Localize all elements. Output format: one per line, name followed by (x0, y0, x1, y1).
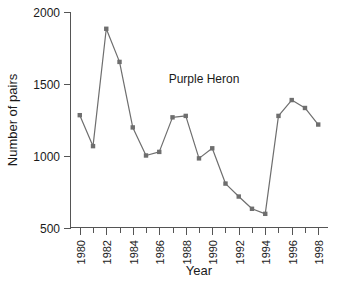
data-point-marker (170, 115, 174, 119)
x-axis-group: 1980198219841986198819901992199419961998… (71, 228, 328, 279)
x-tick-label: 1986 (154, 240, 166, 264)
data-point-marker (78, 113, 82, 117)
data-point-marker (91, 144, 95, 148)
data-point-marker (104, 27, 108, 31)
data-point-marker (290, 98, 294, 102)
y-tick-label: 2000 (33, 6, 60, 20)
y-tick-label: 1500 (33, 78, 60, 92)
series-annotation-label: Purple Heron (169, 72, 240, 86)
x-tick-label: 1996 (287, 240, 299, 264)
data-point-marker (184, 114, 188, 118)
data-point-marker (144, 153, 148, 157)
chart-figure: 200015001000500 Number of pairs 19801982… (0, 0, 339, 284)
y-axis-group: 200015001000500 Number of pairs (5, 6, 71, 236)
data-point-marker (197, 156, 201, 160)
x-axis-title: Year (186, 263, 213, 278)
data-point-marker (237, 194, 241, 198)
data-point-marker (250, 207, 254, 211)
x-tick-labels: 1980198219841986198819901992199419961998 (75, 240, 325, 264)
y-tick-labels: 200015001000500 (33, 6, 60, 236)
data-point-marker (131, 125, 135, 129)
y-axis-title: Number of pairs (5, 73, 20, 166)
x-tick-label: 1992 (234, 240, 246, 264)
y-tick-marks (64, 13, 71, 229)
data-point-marker (223, 181, 227, 185)
line-chart: 200015001000500 Number of pairs 19801982… (0, 0, 339, 284)
series-purple-heron (78, 27, 321, 216)
series-line (80, 29, 318, 214)
data-point-marker (316, 122, 320, 126)
y-tick-label: 500 (40, 222, 60, 236)
x-tick-label: 1982 (101, 240, 113, 264)
x-tick-label: 1998 (313, 240, 325, 264)
data-point-marker (303, 106, 307, 110)
data-point-marker (210, 146, 214, 150)
x-tick-label: 1988 (181, 240, 193, 264)
x-tick-label: 1994 (260, 240, 272, 264)
y-tick-label: 1000 (33, 150, 60, 164)
data-point-marker (276, 114, 280, 118)
data-point-marker (263, 212, 267, 216)
x-tick-label: 1980 (75, 240, 87, 264)
data-point-marker (117, 60, 121, 64)
series-markers (78, 27, 321, 216)
x-tick-marks (81, 228, 319, 236)
data-point-marker (157, 150, 161, 154)
x-tick-label: 1984 (128, 240, 140, 264)
x-tick-label: 1990 (207, 240, 219, 264)
